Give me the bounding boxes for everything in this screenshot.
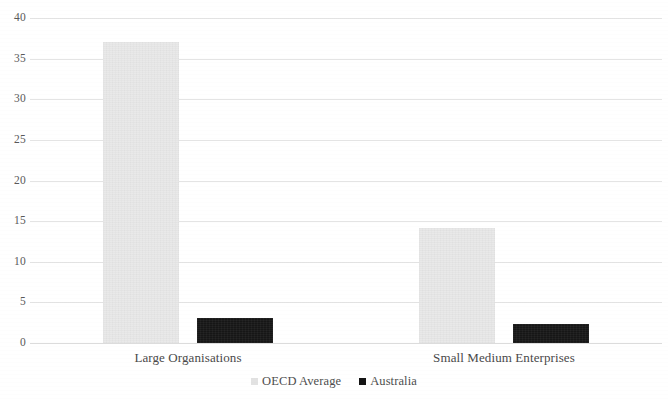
gridline (30, 343, 662, 344)
bar-chart: 0510152025303540 Large OrganisationsSmal… (0, 0, 668, 399)
bar-oecd-average (419, 228, 495, 343)
y-axis-tick-label: 5 (2, 296, 26, 308)
y-axis-tick-label: 10 (2, 256, 26, 268)
legend-item[interactable]: OECD Average (251, 375, 341, 388)
bar-oecd-average (103, 42, 179, 343)
legend-item[interactable]: Australia (359, 375, 417, 388)
legend-swatch-black-icon (359, 378, 366, 385)
legend-label: OECD Average (262, 375, 341, 388)
y-axis-tick-label: 25 (2, 134, 26, 146)
legend-label: Australia (370, 375, 417, 388)
y-axis-tick-label: 30 (2, 93, 26, 105)
chart-legend: OECD AverageAustralia (0, 375, 668, 388)
y-axis-tick-label: 40 (2, 12, 26, 24)
y-axis-tick-label: 15 (2, 215, 26, 227)
bar-australia (513, 324, 589, 344)
gridline (30, 18, 662, 19)
bar-australia (197, 318, 273, 343)
y-axis-tick-label: 35 (2, 53, 26, 65)
plot-area (30, 18, 662, 343)
x-axis-category-label: Large Organisations (78, 350, 298, 365)
y-axis-tick-label: 0 (2, 337, 26, 349)
legend-swatch-gray-icon (251, 378, 258, 385)
x-axis-category-label: Small Medium Enterprises (394, 350, 614, 365)
y-axis-tick-label: 20 (2, 175, 26, 187)
